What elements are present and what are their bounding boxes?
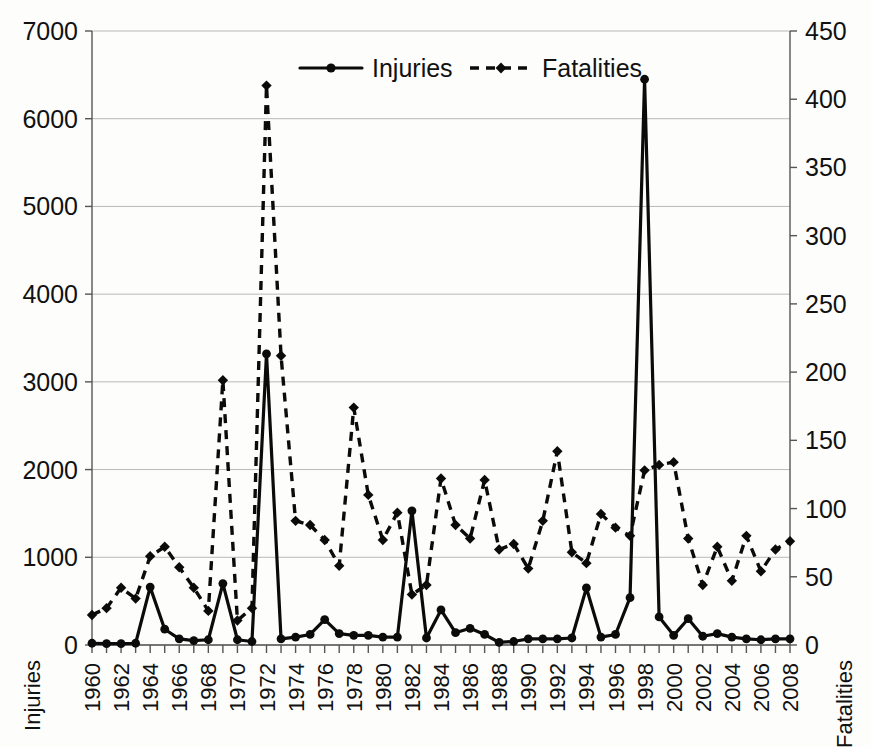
right-tick-label-200: 200 — [805, 358, 847, 386]
x-tick-label-2006: 2006 — [749, 663, 774, 712]
injuries-fatalities-chart: 01000200030004000500060007000 0501001502… — [0, 0, 871, 747]
data-point — [495, 638, 504, 647]
data-point — [422, 634, 431, 643]
data-point — [335, 629, 344, 638]
data-point — [248, 637, 257, 646]
data-point — [393, 633, 402, 642]
data-point — [553, 634, 562, 643]
x-tick-label-1962: 1962 — [109, 663, 134, 712]
data-point — [349, 631, 358, 640]
data-point — [771, 634, 780, 643]
data-point — [669, 631, 678, 640]
data-point — [146, 583, 155, 592]
left-tick-label-5000: 5000 — [22, 192, 78, 220]
right-tick-label-350: 350 — [805, 153, 847, 181]
chart-canvas: 01000200030004000500060007000 0501001502… — [0, 0, 871, 747]
right-tick-label-250: 250 — [805, 290, 847, 318]
data-point — [437, 606, 446, 615]
x-tick-label-1994: 1994 — [574, 663, 599, 712]
data-point — [727, 633, 736, 642]
x-tick-label-1978: 1978 — [342, 663, 367, 712]
data-point — [655, 613, 664, 622]
data-point — [218, 579, 227, 588]
left-tick-label-7000: 7000 — [22, 17, 78, 45]
data-point — [117, 639, 126, 648]
right-tick-label-400: 400 — [805, 85, 847, 113]
x-tick-label-1976: 1976 — [313, 663, 338, 712]
right-tick-label-50: 50 — [805, 563, 833, 591]
x-tick-label-1984: 1984 — [429, 663, 454, 712]
data-point — [291, 633, 300, 642]
right-tick-label-300: 300 — [805, 222, 847, 250]
right-tick-label-0: 0 — [805, 631, 819, 659]
data-point — [364, 631, 373, 640]
data-point — [567, 634, 576, 643]
data-point — [320, 615, 329, 624]
right-tick-label-150: 150 — [805, 426, 847, 454]
left-tick-label-4000: 4000 — [22, 280, 78, 308]
legend-marker-injuries — [326, 63, 335, 72]
x-tick-label-1966: 1966 — [167, 663, 192, 712]
left-tick-label-2000: 2000 — [22, 456, 78, 484]
x-tick-label-2002: 2002 — [691, 663, 716, 712]
data-point — [204, 635, 213, 644]
left-tick-label-1000: 1000 — [22, 543, 78, 571]
data-point — [233, 635, 242, 644]
data-point — [713, 629, 722, 638]
data-point — [306, 630, 315, 639]
data-point — [742, 634, 751, 643]
data-point — [131, 639, 140, 648]
chart-background — [0, 0, 871, 747]
data-point — [786, 634, 795, 643]
right-tick-label-450: 450 — [805, 17, 847, 45]
legend-label-injuries: Injuries — [372, 54, 453, 82]
left-axis-title: Injuries — [20, 660, 45, 731]
data-point — [277, 634, 286, 643]
data-point — [189, 636, 198, 645]
data-point — [451, 628, 460, 637]
x-tick-label-1982: 1982 — [400, 663, 425, 712]
x-tick-label-1972: 1972 — [255, 663, 280, 712]
data-point — [408, 506, 417, 515]
data-point — [597, 633, 606, 642]
data-point — [524, 634, 533, 643]
x-tick-label-2004: 2004 — [720, 663, 745, 712]
left-tick-label-6000: 6000 — [22, 105, 78, 133]
data-point — [757, 635, 766, 644]
data-point — [684, 614, 693, 623]
data-point — [480, 630, 489, 639]
x-tick-label-1988: 1988 — [487, 663, 512, 712]
x-tick-label-1964: 1964 — [138, 663, 163, 712]
x-tick-label-1996: 1996 — [604, 663, 629, 712]
data-point — [698, 632, 707, 641]
left-tick-label-3000: 3000 — [22, 368, 78, 396]
data-point — [378, 633, 387, 642]
data-point — [626, 593, 635, 602]
data-point — [160, 625, 169, 634]
x-tick-label-1992: 1992 — [545, 663, 570, 712]
right-axis-title: Fatalities — [832, 660, 857, 747]
x-tick-label-1974: 1974 — [284, 663, 309, 712]
x-tick-label-1990: 1990 — [516, 663, 541, 712]
data-point — [88, 639, 97, 648]
right-tick-label-100: 100 — [805, 495, 847, 523]
data-point — [175, 634, 184, 643]
x-tick-label-1986: 1986 — [458, 663, 483, 712]
legend-label-fatalities: Fatalities — [542, 54, 642, 82]
data-point — [466, 624, 475, 633]
x-tick-label-2000: 2000 — [662, 663, 687, 712]
x-tick-label-1960: 1960 — [80, 663, 105, 712]
x-tick-label-2008: 2008 — [778, 663, 803, 712]
left-tick-label-0: 0 — [64, 631, 78, 659]
data-point — [262, 349, 271, 358]
data-point — [582, 584, 591, 593]
x-tick-label-1980: 1980 — [371, 663, 396, 712]
x-tick-label-1968: 1968 — [196, 663, 221, 712]
x-tick-label-1998: 1998 — [633, 663, 658, 712]
data-point — [509, 637, 518, 646]
data-point — [102, 639, 111, 648]
data-point — [611, 630, 620, 639]
x-tick-label-1970: 1970 — [225, 663, 250, 712]
data-point — [538, 634, 547, 643]
